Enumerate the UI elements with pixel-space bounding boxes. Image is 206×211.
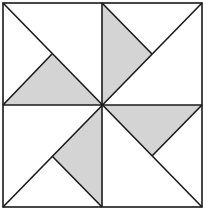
pinwheel-diagram	[0, 0, 206, 211]
bottom-right-shaded-triangle	[102, 105, 202, 156]
diagram-lines	[3, 3, 202, 207]
top-left-shaded-triangle	[3, 54, 102, 105]
bottom-left-shaded-triangle	[52, 105, 102, 207]
top-right-shaded-triangle	[102, 3, 152, 105]
